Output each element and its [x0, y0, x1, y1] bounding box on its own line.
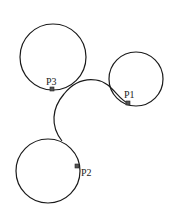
point-label: P2: [81, 167, 92, 178]
point-p1: P1: [124, 89, 135, 105]
point-marker-icon: [75, 164, 79, 168]
point-p2: P2: [75, 164, 92, 178]
point-label: P1: [124, 89, 135, 100]
circle-right: [109, 52, 163, 106]
diagram-canvas: P1 P2 P3: [0, 0, 177, 211]
point-marker-icon: [126, 101, 130, 105]
point-p3: P3: [46, 76, 57, 91]
connecting-curve: [54, 80, 128, 141]
point-marker-icon: [50, 87, 54, 91]
point-label: P3: [46, 76, 57, 87]
circle-bottom: [16, 139, 80, 203]
